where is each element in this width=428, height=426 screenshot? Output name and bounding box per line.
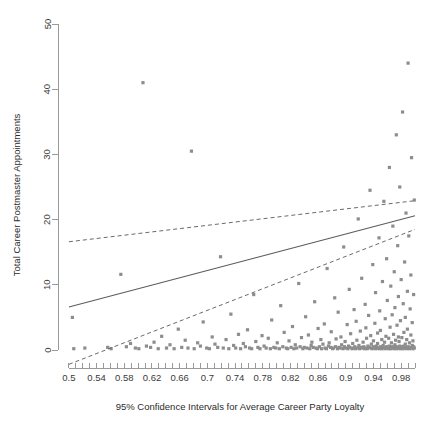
data-point [149, 346, 152, 349]
data-point [180, 346, 183, 349]
data-point [359, 329, 362, 332]
x-tick-label: 0.94 [364, 372, 383, 383]
data-point [372, 339, 375, 342]
data-point [274, 346, 277, 349]
data-point [269, 347, 272, 350]
data-point [380, 338, 383, 341]
data-point [393, 270, 396, 273]
data-point [392, 333, 395, 336]
data-point [129, 342, 132, 345]
data-point [378, 309, 381, 312]
data-point [222, 346, 225, 349]
data-point [357, 217, 360, 220]
data-point [208, 347, 211, 350]
data-point [224, 338, 227, 341]
data-point [409, 333, 412, 336]
data-point [270, 318, 273, 321]
data-point [402, 331, 405, 334]
data-point [404, 211, 407, 214]
data-point [390, 341, 393, 344]
data-point [388, 326, 391, 329]
data-point [292, 347, 295, 350]
data-point [173, 347, 176, 350]
data-point [145, 344, 148, 347]
data-point [295, 346, 298, 349]
data-point [125, 345, 128, 348]
data-point [360, 277, 363, 280]
data-point [411, 339, 414, 342]
data-point [385, 257, 388, 260]
data-point [308, 347, 311, 350]
data-point [177, 328, 180, 331]
data-point [246, 328, 249, 331]
data-point [312, 346, 315, 349]
data-point [216, 346, 219, 349]
data-point [342, 245, 345, 248]
data-point [408, 341, 411, 344]
data-point [337, 311, 340, 314]
data-point [279, 304, 282, 307]
data-point [258, 347, 261, 350]
data-point [373, 322, 376, 325]
data-point [196, 341, 199, 344]
plot-canvas: 01020304050 0.50.540.580.620.660.70.740.… [0, 0, 428, 426]
data-point [396, 244, 399, 247]
data-point [361, 341, 364, 344]
data-point [368, 189, 371, 192]
x-axis-title: 95% Confidence Intervals for Average Car… [116, 401, 365, 412]
data-point [409, 273, 412, 276]
data-point [413, 346, 416, 349]
data-point [364, 326, 367, 329]
data-point [403, 260, 406, 263]
data-point [393, 306, 396, 309]
data-point [340, 343, 343, 346]
x-tick-label: 0.78 [253, 372, 272, 383]
data-point [299, 345, 302, 348]
data-point [119, 273, 122, 276]
data-point [186, 346, 189, 349]
data-point [157, 347, 160, 350]
data-point [141, 81, 144, 84]
data-point [320, 347, 323, 350]
data-point [376, 331, 379, 334]
data-point [72, 347, 75, 350]
data-point [411, 321, 414, 324]
data-point [384, 335, 387, 338]
data-point [294, 343, 297, 346]
x-tick-label: 0.62 [143, 372, 162, 383]
data-point [394, 339, 397, 342]
data-point [387, 337, 390, 340]
data-point [219, 255, 222, 258]
data-point [278, 347, 281, 350]
data-point [137, 347, 140, 350]
figure-background [0, 0, 428, 426]
data-point [348, 288, 351, 291]
data-point [397, 340, 400, 343]
data-point [305, 346, 308, 349]
data-point [400, 278, 403, 281]
scatter-plot-figure: 01020304050 0.50.540.580.620.660.70.740.… [0, 0, 428, 426]
data-point [352, 308, 355, 311]
data-point [334, 337, 337, 340]
data-point [407, 234, 410, 237]
data-point [313, 300, 316, 303]
data-point [237, 333, 240, 336]
data-point [202, 320, 205, 323]
y-tick-label: 40 [42, 84, 53, 95]
y-tick-label: 10 [42, 280, 53, 291]
data-point [326, 267, 329, 270]
data-point [205, 346, 208, 349]
data-point [297, 282, 300, 285]
data-point [134, 346, 137, 349]
x-tick-label: 0.58 [115, 372, 134, 383]
data-point [229, 313, 232, 316]
data-point [412, 293, 415, 296]
data-point [339, 335, 342, 338]
data-point [304, 315, 307, 318]
data-point [379, 329, 382, 332]
x-tick-label: 0.54 [87, 372, 106, 383]
data-point [391, 313, 394, 316]
data-point [343, 340, 346, 343]
data-point [391, 225, 394, 228]
data-point [193, 347, 196, 350]
